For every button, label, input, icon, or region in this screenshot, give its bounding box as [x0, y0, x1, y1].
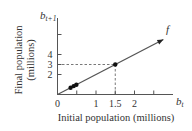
population-map-chart: Final population (millions) bt+1 234 011…	[0, 0, 192, 131]
x-tick-label: 1.5	[109, 98, 122, 109]
y-ticks: 234	[48, 35, 62, 81]
x-tick-label: 1	[94, 98, 99, 109]
x-axis-title: Initial population (millions)	[58, 112, 175, 124]
function-label: f	[166, 23, 171, 35]
y-axis-title-line1: Final population	[13, 25, 24, 95]
x-tick-label: 0	[55, 98, 60, 109]
data-point	[113, 62, 117, 66]
y-tick-label: 3	[48, 59, 53, 70]
y-tick-label: 2	[48, 69, 53, 80]
y-axis-variable: bt+1	[40, 9, 56, 23]
data-point	[74, 83, 78, 87]
x-ticks: 011.52	[55, 91, 154, 109]
y-axis-title-line2: (millions)	[25, 39, 37, 81]
x-axis-variable: bt	[176, 95, 185, 109]
x-tick-label: 2	[132, 98, 137, 109]
y-tick-label: 4	[48, 49, 53, 60]
